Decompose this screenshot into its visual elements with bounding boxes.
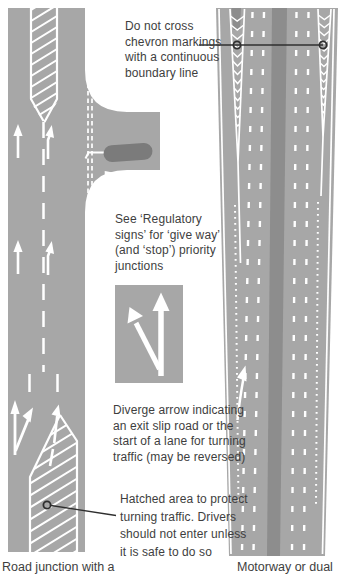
regulatory-note: See ‘Regulatory signs’ for ‘give way’ (a… xyxy=(115,212,220,274)
road-markings-page: Do not cross chevron markings with a con… xyxy=(0,0,341,581)
caption-right: Motorway or dual xyxy=(237,560,333,575)
give-way-triangle-icon xyxy=(106,173,144,188)
caption-left: Road junction with a xyxy=(2,560,115,575)
chevron-note: Do not cross chevron markings with a con… xyxy=(125,19,221,81)
traffic-island xyxy=(103,142,153,162)
diverge-arrow-sample-box xyxy=(115,285,183,383)
motorway-illustration xyxy=(216,8,338,556)
hatched-note: Hatched area to protect turning traffic.… xyxy=(120,491,248,561)
diverge-note: Diverge arrow indicating an exit slip ro… xyxy=(113,403,246,465)
